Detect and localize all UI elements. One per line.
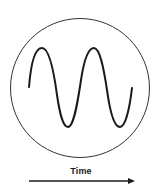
- arrow-head-icon: [128, 178, 135, 184]
- waveform-diagram: [0, 0, 155, 193]
- time-axis-label: Time: [0, 166, 155, 176]
- sine-wave: [29, 48, 132, 127]
